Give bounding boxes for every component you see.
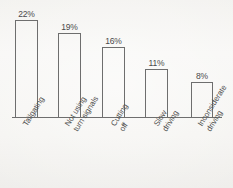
bar-value-label: 19%: [56, 22, 83, 32]
bar-value-label: 22%: [13, 9, 40, 19]
bar-value-label: 16%: [100, 36, 127, 46]
bar-value-label: 11%: [143, 58, 170, 68]
bar-chart: 22% 19% 16% 11% 8% Tailgating Not using …: [0, 0, 233, 188]
plot-area: 22% 19% 16% 11% 8% Tailgating Not using …: [0, 0, 233, 188]
bar-value-label: 8%: [189, 71, 215, 81]
